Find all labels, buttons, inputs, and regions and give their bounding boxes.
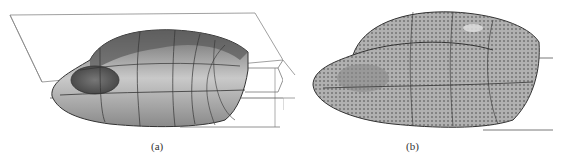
surface-model-a: [0, 0, 283, 165]
caption-b: (b): [406, 140, 419, 152]
surface-model-b: [283, 0, 566, 165]
figure-panel-a: (a): [0, 0, 283, 165]
caption-a: (a): [151, 140, 163, 152]
figure-panel-b: (b): [283, 0, 566, 165]
